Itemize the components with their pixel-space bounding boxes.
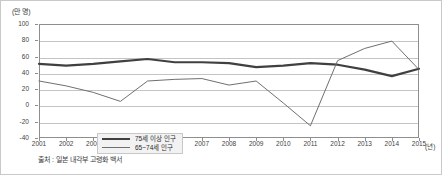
x-axis-tick-label: 2013 bbox=[357, 141, 371, 148]
x-axis-tick-label: 2007 bbox=[195, 141, 209, 148]
y-axis-tick-mark bbox=[35, 122, 38, 123]
y-axis-tick-label: 80 bbox=[22, 37, 29, 44]
y-axis-tick-mark bbox=[35, 138, 38, 139]
y-axis-unit-label: (만 명) bbox=[12, 6, 31, 16]
y-axis-tick-label: 40 bbox=[22, 70, 29, 77]
y-axis-tick-mark bbox=[35, 57, 38, 58]
x-axis-tick-label: 2008 bbox=[222, 141, 236, 148]
legend-item-label: 65~74세 인구 bbox=[135, 145, 173, 152]
legend-item-label: 75세 이상 인구 bbox=[135, 136, 176, 143]
chart-figure: (만 명) 100806040200-20-40 75세 이상 인구 65~74… bbox=[0, 0, 442, 175]
x-axis-tick-label: 2009 bbox=[249, 141, 263, 148]
series-layer bbox=[39, 24, 419, 138]
source-note: 출처 : 일본 내각부 고령화 백서 bbox=[38, 154, 122, 164]
plot-wrapper: 75세 이상 인구 65~74세 인구 bbox=[39, 24, 419, 138]
y-axis-tick-label: 20 bbox=[22, 86, 29, 93]
y-axis-tick-label: -40 bbox=[20, 135, 29, 142]
x-axis-tick-row: 2001200220032004200520062007200820092010… bbox=[39, 138, 419, 152]
y-axis-tick-column: 100806040200-20-40 bbox=[1, 24, 35, 138]
y-axis-tick-mark bbox=[35, 89, 38, 90]
y-axis-tick-mark bbox=[35, 73, 38, 74]
x-axis-tick-label: 2012 bbox=[330, 141, 344, 148]
x-axis-unit-label: (년) bbox=[425, 141, 435, 151]
chart-legend: 75세 이상 인구 65~74세 인구 bbox=[97, 133, 183, 154]
legend-line-swatch bbox=[102, 138, 130, 140]
legend-item: 75세 이상 인구 bbox=[102, 136, 176, 143]
x-axis-tick-label: 2001 bbox=[32, 141, 46, 148]
y-axis-tick-label: -20 bbox=[20, 118, 29, 125]
series-line bbox=[39, 41, 419, 126]
series-line bbox=[39, 59, 419, 76]
y-axis-tick-mark bbox=[35, 40, 38, 41]
y-axis-tick-mark bbox=[35, 105, 38, 106]
y-axis-tick-label: 100 bbox=[18, 21, 29, 28]
y-axis-tick-label: 0 bbox=[25, 102, 29, 109]
x-axis-tick-label: 2002 bbox=[59, 141, 73, 148]
y-axis-tick-label: 60 bbox=[22, 53, 29, 60]
y-axis-tick-mark bbox=[35, 24, 38, 25]
x-axis-tick-label: 2010 bbox=[276, 141, 290, 148]
legend-item: 65~74세 인구 bbox=[102, 145, 176, 152]
x-axis-tick-label: 2014 bbox=[385, 141, 399, 148]
x-axis-tick-label: 2011 bbox=[303, 141, 317, 148]
legend-line-swatch bbox=[102, 147, 130, 148]
